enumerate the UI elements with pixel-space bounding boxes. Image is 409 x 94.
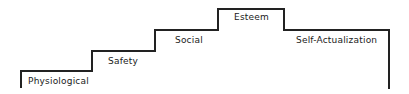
step-label-social: Social <box>175 35 203 45</box>
step-label-esteem: Esteem <box>234 12 269 22</box>
step-label-self-actualization: Self-Actualization <box>296 35 377 45</box>
step-label-safety: Safety <box>108 56 138 66</box>
step-label-physiological: Physiological <box>28 76 89 86</box>
